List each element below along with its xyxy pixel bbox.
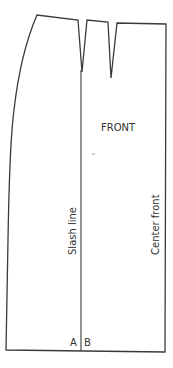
center-front-label: Center front — [150, 194, 161, 255]
point-a-label: A — [70, 337, 77, 348]
paper-speck — [92, 153, 95, 155]
piece-label-front: FRONT — [101, 122, 136, 133]
slash-line-label: Slash line — [67, 207, 78, 255]
pattern-outline — [6, 15, 166, 352]
pattern-diagram: FRONT Slash line Center front A B — [0, 0, 173, 368]
point-b-label: B — [84, 337, 91, 348]
